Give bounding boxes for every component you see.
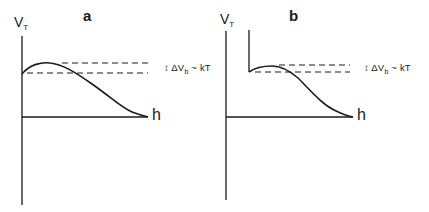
panel-a-y-label-main: V xyxy=(14,14,23,30)
panel-a-potential-curve xyxy=(22,63,148,117)
panel-a xyxy=(22,36,148,205)
panel-a-x-axis-label: h xyxy=(152,106,161,124)
double-arrow-icon: ↕ xyxy=(364,62,369,73)
panel-a-y-axis-label: VT xyxy=(14,14,28,32)
panel-b-annotation-delta: ΔV xyxy=(371,62,384,73)
panel-b-annotation: ↕ ΔVb ~ kT xyxy=(364,62,411,75)
panel-a-y-label-subscript: T xyxy=(23,23,28,32)
panel-b-annotation-suffix: ~ kT xyxy=(391,62,411,73)
panel-b-annotation-subscript: b xyxy=(384,68,388,75)
panel-b-potential-curve xyxy=(249,66,353,117)
panel-a-annotation-subscript: b xyxy=(184,68,188,75)
panel-b-x-axis-label: h xyxy=(357,106,366,124)
panel-b-y-axis-label: VT xyxy=(220,11,234,29)
double-arrow-icon: ↕ xyxy=(164,62,169,73)
panel-a-letter: a xyxy=(83,7,91,24)
panel-b-y-label-subscript: T xyxy=(229,20,234,29)
panel-a-annotation-suffix: ~ kT xyxy=(191,62,211,73)
panel-b xyxy=(226,30,353,200)
panel-a-annotation-delta: ΔV xyxy=(171,62,184,73)
panel-a-annotation: ↕ ΔVb ~ kT xyxy=(164,62,211,75)
panel-b-y-label-main: V xyxy=(220,11,229,27)
panel-b-letter: b xyxy=(289,7,298,24)
